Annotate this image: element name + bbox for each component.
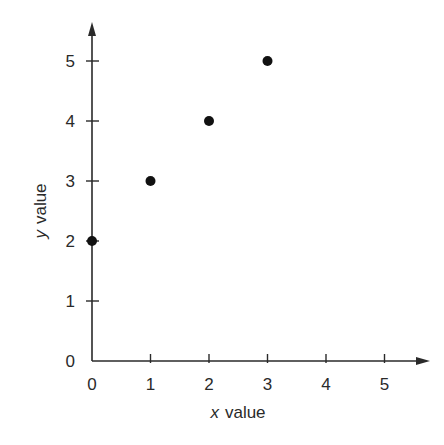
x-tick-label: 0: [87, 375, 96, 394]
y-axis-label: yvalue: [31, 183, 50, 239]
y-axis-arrow-icon: [88, 22, 96, 36]
ticks: 012345012345: [66, 52, 390, 394]
data-point: [87, 236, 97, 246]
y-tick-label: 0: [66, 352, 75, 371]
x-tick-label: 2: [204, 375, 213, 394]
data-point: [263, 56, 273, 66]
scatter-chart: 012345012345 xvalue yvalue: [0, 0, 444, 445]
x-tick-label: 1: [146, 375, 155, 394]
x-axis-label: xvalue: [209, 403, 265, 422]
x-tick-label: 5: [380, 375, 389, 394]
data-point: [204, 116, 214, 126]
y-tick-label: 2: [66, 232, 75, 251]
data-points: [87, 56, 273, 246]
axes: [88, 22, 430, 365]
y-tick-label: 4: [66, 112, 75, 131]
x-tick-label: 4: [321, 375, 330, 394]
y-tick-label: 1: [66, 292, 75, 311]
data-point: [146, 176, 156, 186]
x-tick-label: 3: [263, 375, 272, 394]
y-tick-label: 5: [66, 52, 75, 71]
x-axis-arrow-icon: [416, 357, 430, 365]
y-tick-label: 3: [66, 172, 75, 191]
